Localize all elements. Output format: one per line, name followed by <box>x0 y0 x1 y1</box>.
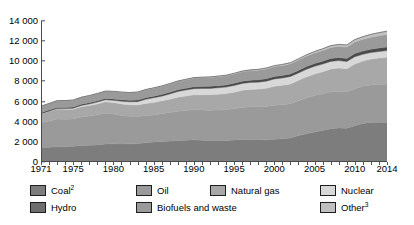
x-axis-label: 1971 <box>30 164 51 174</box>
x-axis-label: 1990 <box>183 164 204 174</box>
x-axis-label: 1980 <box>103 164 124 174</box>
legend-coal[interactable]: Coal2 <box>30 182 74 199</box>
legend-swatch <box>30 185 46 196</box>
legend-other[interactable]: Other3 <box>320 199 368 216</box>
stacked-area-chart <box>41 21 387 162</box>
x-axis-tick <box>250 162 251 165</box>
x-axis-label: 2014 <box>376 164 397 174</box>
legend-swatch <box>30 202 46 213</box>
x-axis-tick <box>210 162 211 165</box>
y-axis-label: 4 000 <box>14 117 38 127</box>
legend-label: Coal2 <box>51 185 74 196</box>
x-axis-tick <box>218 162 219 165</box>
y-axis-label: 10 000 <box>9 57 38 67</box>
legend-label: Natural gas <box>231 186 280 196</box>
x-axis-tick <box>89 162 90 165</box>
x-axis-tick <box>170 162 171 165</box>
x-axis-tick <box>290 162 291 165</box>
y-axis-label: 2 000 <box>14 137 38 147</box>
legend-swatch <box>320 202 336 213</box>
legend-swatch <box>136 202 152 213</box>
legend-nuclear[interactable]: Nuclear <box>320 182 374 199</box>
y-axis-label: 6 000 <box>14 97 38 107</box>
legend-swatch <box>320 185 336 196</box>
legend-swatch <box>210 185 226 196</box>
x-axis-label: 1995 <box>224 164 245 174</box>
legend-label: Other3 <box>341 202 368 213</box>
legend-oil[interactable]: Oil <box>136 182 169 199</box>
x-axis-tick <box>331 162 332 165</box>
x-axis-tick <box>178 162 179 165</box>
x-axis-tick <box>57 162 58 165</box>
chart-legend: Coal2OilNatural gasNuclear HydroBiofuels… <box>30 182 390 216</box>
plot-area <box>41 21 387 162</box>
x-axis-tick <box>258 162 259 165</box>
legend-row: Coal2OilNatural gasNuclear <box>30 182 390 199</box>
legend-hydro[interactable]: Hydro <box>30 199 76 216</box>
x-axis-label: 1985 <box>143 164 164 174</box>
legend-biofuels-and-waste[interactable]: Biofuels and waste <box>136 199 237 216</box>
x-axis-label: 2005 <box>304 164 325 174</box>
legend-label: Biofuels and waste <box>157 203 237 213</box>
x-axis-tick <box>97 162 98 165</box>
y-axis-label: 12 000 <box>9 36 38 46</box>
x-axis-label: 2000 <box>264 164 285 174</box>
x-axis-label: 2010 <box>344 164 365 174</box>
legend-label: Nuclear <box>341 186 374 196</box>
chart-figure: 02 0004 0006 0008 00010 00012 00014 000 … <box>0 0 414 225</box>
legend-swatch <box>136 185 152 196</box>
x-axis-tick <box>298 162 299 165</box>
x-axis-tick <box>130 162 131 165</box>
legend-footnote-marker: 3 <box>365 201 369 208</box>
legend-row: HydroBiofuels and wasteOther3 <box>30 199 390 216</box>
legend-footnote-marker: 2 <box>71 184 75 191</box>
x-axis-label: 1975 <box>63 164 84 174</box>
x-axis-tick <box>371 162 372 165</box>
y-axis-label: 14 000 <box>9 16 38 26</box>
legend-natural-gas[interactable]: Natural gas <box>210 182 280 199</box>
y-axis-label: 8 000 <box>14 77 38 87</box>
x-axis-tick <box>138 162 139 165</box>
x-axis-tick <box>339 162 340 165</box>
legend-label: Oil <box>157 186 169 196</box>
legend-label: Hydro <box>51 203 76 213</box>
